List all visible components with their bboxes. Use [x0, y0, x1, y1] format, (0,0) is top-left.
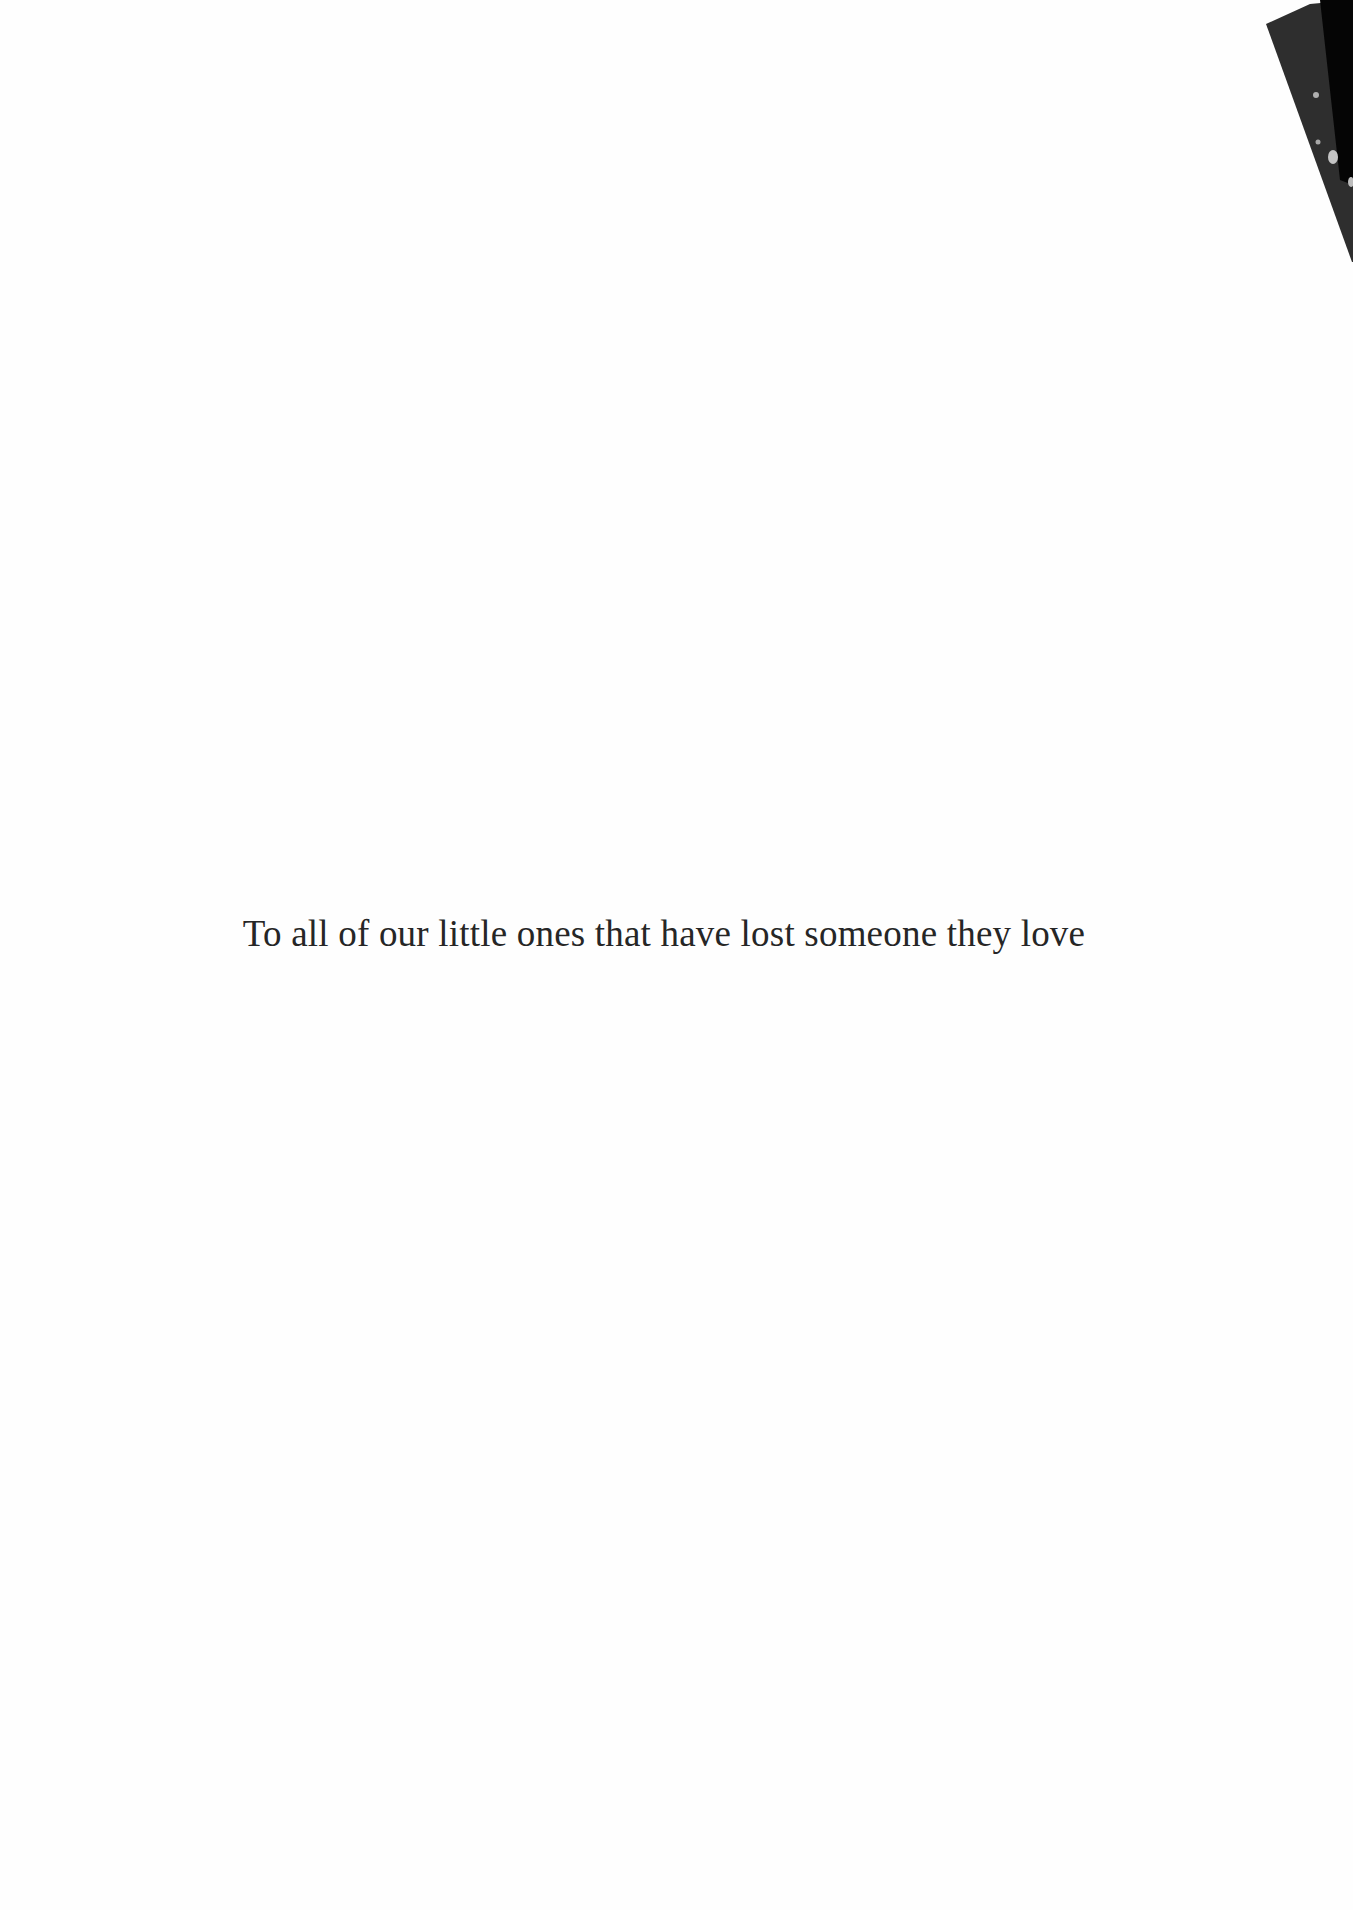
book-page: To all of our little ones that have lost…: [0, 0, 1353, 1910]
dedication-text: To all of our little ones that have lost…: [0, 915, 1353, 952]
corner-image-fragment: [1240, 0, 1353, 280]
